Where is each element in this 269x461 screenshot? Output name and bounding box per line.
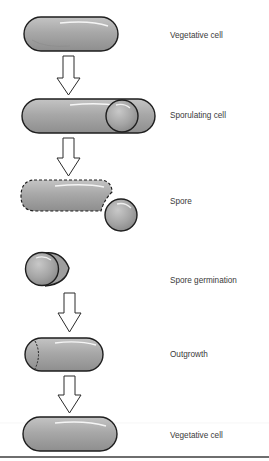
lysed-mother-cell-shape bbox=[21, 180, 112, 211]
down-arrow-icon bbox=[57, 56, 80, 95]
stage-label-sporulating-cell: Sporulating cell bbox=[170, 111, 226, 121]
bottom-rule-divider bbox=[0, 456, 269, 458]
forespore-icon bbox=[106, 100, 138, 132]
spore-cycle-diagram bbox=[0, 0, 269, 461]
sporulating-cell-shape bbox=[22, 99, 155, 133]
outgrowth-cell-shape bbox=[25, 338, 103, 371]
stage-label-vegetative-cell-final: Vegetative cell bbox=[170, 431, 223, 441]
vegetative-cell-shape bbox=[23, 417, 117, 451]
stage-label-spore-germination: Spore germination bbox=[170, 276, 237, 286]
vegetative-cell-shape bbox=[24, 17, 118, 51]
free-spore-icon bbox=[105, 199, 137, 231]
stage-label-vegetative-cell: Vegetative cell bbox=[170, 31, 223, 41]
down-arrow-icon bbox=[57, 138, 80, 176]
stage-label-outgrowth: Outgrowth bbox=[170, 350, 208, 360]
down-arrow-icon bbox=[58, 376, 81, 413]
germinating-spore-shape bbox=[26, 253, 70, 287]
stage-label-spore: Spore bbox=[170, 197, 192, 207]
down-arrow-icon bbox=[58, 293, 81, 332]
